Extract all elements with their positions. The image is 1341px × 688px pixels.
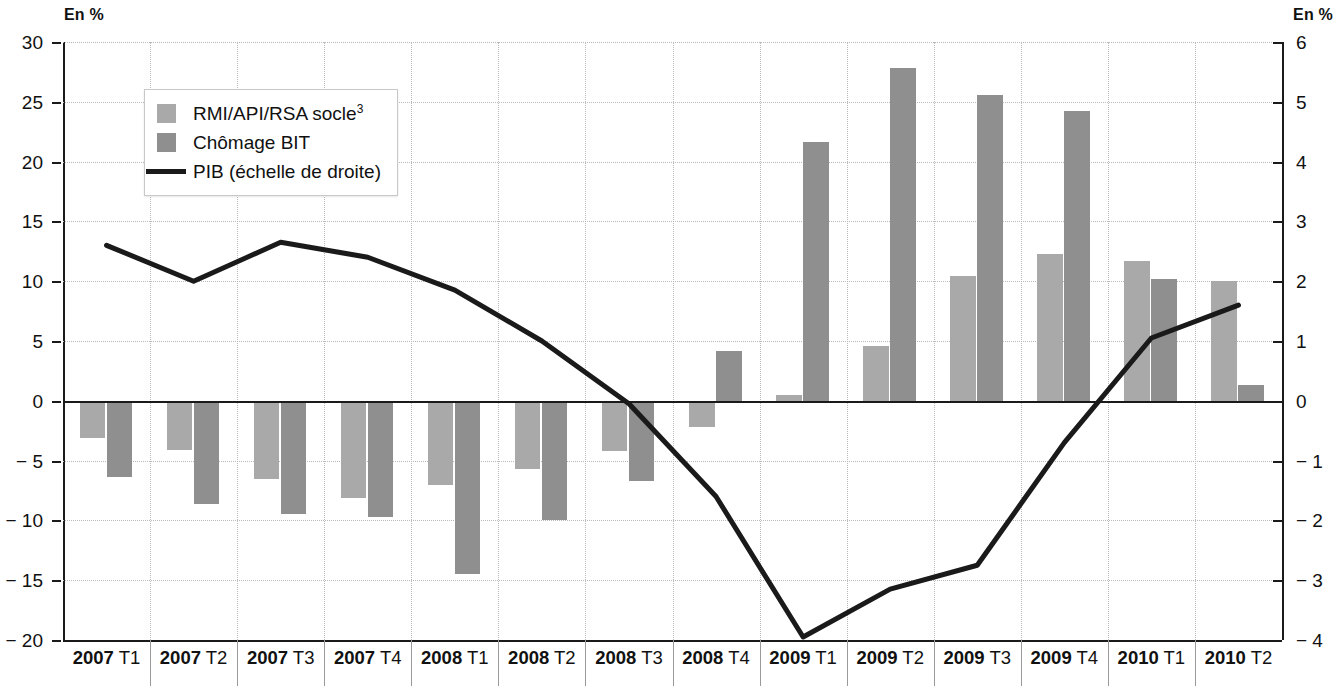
x-label-quarter: T1 — [114, 647, 140, 668]
x-axis-tick-label: 2007 T1 — [63, 648, 150, 668]
right-axis-tick-label: 3 — [1296, 212, 1307, 231]
left-axis-tick-label: − 5 — [0, 451, 43, 470]
chart-container: En % En % 302520151050− 5− 10− 15− 20 65… — [0, 0, 1341, 688]
x-axis-tick-label: 2009 T4 — [1021, 648, 1108, 668]
x-label-year: 2009 — [856, 647, 897, 668]
legend-footnote-marker: 3 — [357, 102, 364, 116]
x-axis-tick-label: 2009 T3 — [934, 648, 1021, 668]
x-label-year: 2008 — [682, 647, 723, 668]
right-axis-tick-label: − 3 — [1296, 571, 1323, 590]
right-axis-tick-label: − 2 — [1296, 511, 1323, 530]
x-label-quarter: T4 — [375, 647, 401, 668]
x-axis-tick-label: 2008 T2 — [498, 648, 585, 668]
left-axis-unit-label: En % — [64, 6, 104, 24]
left-axis-tick — [52, 102, 61, 104]
legend-rmi: RMI/API/RSA socle3 — [157, 99, 381, 128]
x-axis-tick-label: 2008 T4 — [673, 648, 760, 668]
x-label-year: 2008 — [595, 647, 636, 668]
legend-line-icon — [146, 169, 186, 174]
left-axis-tick — [52, 520, 61, 522]
x-label-quarter: T4 — [1072, 647, 1098, 668]
left-axis-tick-label: − 20 — [0, 631, 43, 650]
x-label-quarter: T1 — [462, 647, 488, 668]
right-axis-unit-label: En % — [1293, 6, 1333, 24]
legend-label: Chômage BIT — [193, 132, 310, 154]
right-axis-tick-label: 2 — [1296, 272, 1307, 291]
right-axis-spine — [1282, 42, 1284, 640]
left-axis-tick-label: 20 — [0, 152, 43, 171]
x-label-year: 2007 — [334, 647, 375, 668]
x-label-quarter: T3 — [288, 647, 314, 668]
right-axis-tick-label: 4 — [1296, 152, 1307, 171]
x-label-year: 2008 — [421, 647, 462, 668]
x-axis-tick-label: 2007 T3 — [237, 648, 324, 668]
right-axis-tick-label: 5 — [1296, 92, 1307, 111]
left-axis-tick — [52, 162, 61, 164]
x-label-quarter: T1 — [1159, 647, 1185, 668]
left-axis-tick-label: − 10 — [0, 511, 43, 530]
right-axis-tick-label: − 4 — [1296, 631, 1323, 650]
x-label-quarter: T2 — [549, 647, 575, 668]
right-axis-tick-label: 0 — [1296, 391, 1307, 410]
x-axis-tick-label: 2010 T1 — [1108, 648, 1195, 668]
left-axis-tick — [52, 42, 61, 44]
left-axis-tick-label: 5 — [0, 332, 43, 351]
x-label-year: 2010 — [1205, 647, 1246, 668]
right-axis-tick-label: 6 — [1296, 33, 1307, 52]
x-axis-tick-label: 2010 T2 — [1195, 648, 1282, 668]
legend-swatch-icon — [157, 104, 176, 123]
left-axis-tick-label: 10 — [0, 272, 43, 291]
chart-legend: RMI/API/RSA socle3Chômage BITPIB (échell… — [144, 89, 398, 196]
legend-swatch-icon — [157, 133, 176, 152]
x-label-quarter: T2 — [1246, 647, 1272, 668]
left-axis-tick-label: 25 — [0, 92, 43, 111]
x-label-year: 2009 — [769, 647, 810, 668]
x-label-year: 2007 — [160, 647, 201, 668]
left-axis-tick-label: 0 — [0, 391, 43, 410]
x-axis-tick-label: 2008 T3 — [585, 648, 672, 668]
left-axis-tick — [52, 341, 61, 343]
x-label-year: 2010 — [1118, 647, 1159, 668]
left-axis-tick-label: 15 — [0, 212, 43, 231]
left-axis-tick — [52, 281, 61, 283]
x-axis-tick-label: 2009 T2 — [847, 648, 934, 668]
x-label-quarter: T3 — [636, 647, 662, 668]
x-label-year: 2009 — [1031, 647, 1072, 668]
x-axis-tick-label: 2007 T4 — [324, 648, 411, 668]
left-axis-tick — [52, 221, 61, 223]
x-axis-labels: 2007 T12007 T22007 T32007 T42008 T12008 … — [63, 640, 1282, 688]
left-axis-tick — [52, 461, 61, 463]
x-label-year: 2007 — [247, 647, 288, 668]
legend-label: RMI/API/RSA socle3 — [193, 102, 363, 125]
pib-line-path — [107, 242, 1239, 637]
x-label-quarter: T1 — [810, 647, 836, 668]
left-axis-tick-label: − 15 — [0, 571, 43, 590]
x-label-quarter: T3 — [985, 647, 1011, 668]
x-axis-tick-label: 2007 T2 — [150, 648, 237, 668]
right-axis-tick-label: − 1 — [1296, 451, 1323, 470]
right-axis-tick-label: 1 — [1296, 332, 1307, 351]
legend-chomage: Chômage BIT — [157, 128, 381, 157]
left-axis-tick-label: 30 — [0, 33, 43, 52]
x-axis-tick-label: 2008 T1 — [411, 648, 498, 668]
x-label-year: 2008 — [508, 647, 549, 668]
x-label-year: 2009 — [943, 647, 984, 668]
legend-pib: PIB (échelle de droite) — [157, 157, 381, 186]
x-axis-tick-label: 2009 T1 — [760, 648, 847, 668]
left-axis-tick — [52, 580, 61, 582]
x-label-quarter: T4 — [723, 647, 749, 668]
x-label-quarter: T2 — [201, 647, 227, 668]
x-label-year: 2007 — [73, 647, 114, 668]
legend-label: PIB (échelle de droite) — [193, 161, 381, 183]
left-axis-tick — [52, 401, 61, 403]
x-label-quarter: T2 — [898, 647, 924, 668]
left-axis-tick — [52, 640, 61, 642]
